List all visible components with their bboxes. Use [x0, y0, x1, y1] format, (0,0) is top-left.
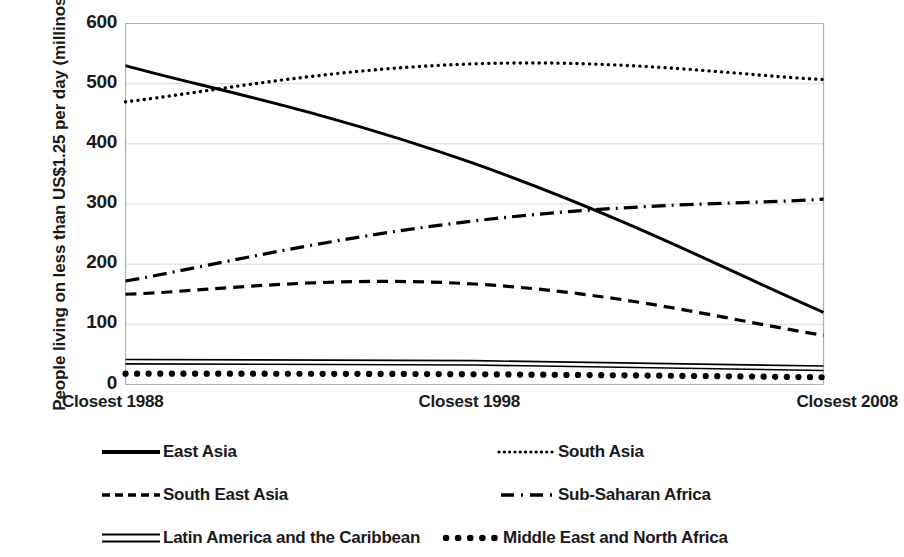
- legend-line-swatch-icon: [495, 484, 557, 506]
- legend-line-swatch-icon: [495, 441, 557, 463]
- chart-legend: East AsiaSouth AsiaSouth East AsiaSub-Sa…: [0, 432, 904, 557]
- legend-item[interactable]: East Asia: [100, 432, 237, 472]
- legend-item-label: East Asia: [163, 442, 237, 462]
- legend-item[interactable]: South East Asia: [100, 475, 288, 515]
- legend-item-label: South Asia: [558, 442, 644, 462]
- legend-item[interactable]: Latin America and the Caribbean: [100, 518, 420, 557]
- series-line: [126, 374, 824, 378]
- series-line: [126, 66, 824, 313]
- legend-item-label: South East Asia: [163, 485, 288, 505]
- legend-item-label: Middle East and North Africa: [503, 528, 728, 548]
- series-lines: [126, 63, 824, 377]
- series-line: [126, 281, 824, 335]
- legend-item[interactable]: Sub-Saharan Africa: [495, 475, 711, 515]
- gridlines: [126, 24, 824, 325]
- legend-row: East AsiaSouth Asia: [0, 432, 904, 472]
- series-line: [126, 199, 824, 281]
- series-line: [126, 359, 824, 370]
- legend-item[interactable]: South Asia: [495, 432, 644, 472]
- legend-item[interactable]: Middle East and North Africa: [440, 518, 728, 557]
- series-line: [126, 63, 824, 102]
- plot-area: [0, 0, 904, 430]
- legend-item-label: Sub-Saharan Africa: [558, 485, 711, 505]
- legend-row: Latin America and the CaribbeanMiddle Ea…: [0, 518, 904, 557]
- legend-line-swatch-icon: [100, 441, 162, 463]
- legend-line-swatch-icon: [100, 527, 162, 549]
- legend-line-swatch-icon: [100, 484, 162, 506]
- legend-item-label: Latin America and the Caribbean: [163, 528, 420, 548]
- legend-row: South East AsiaSub-Saharan Africa: [0, 475, 904, 515]
- legend-line-swatch-icon: [440, 527, 502, 549]
- chart-figure: People living on less than US$1.25 per d…: [0, 0, 904, 557]
